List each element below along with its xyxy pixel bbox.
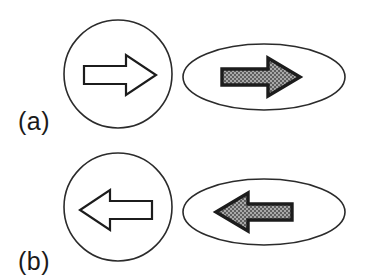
figure-container: (a) (b) — [0, 0, 372, 279]
panel-b-ellipse-group — [183, 179, 345, 245]
panel-a-circle-group — [64, 20, 172, 128]
figure-canvas: (a) (b) — [0, 0, 372, 279]
panel-a-ellipse-group — [183, 44, 345, 110]
panel-a-label: (a) — [18, 107, 50, 135]
panel-b-label: (b) — [18, 247, 50, 275]
panel-b-circle-group — [64, 153, 172, 261]
